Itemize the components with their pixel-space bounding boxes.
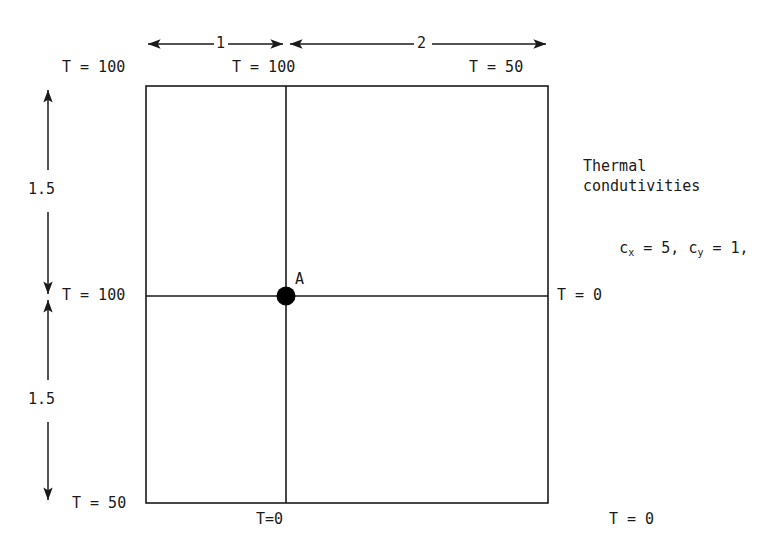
- dim-label-top-right: 2: [417, 36, 426, 51]
- point-a-marker: [277, 287, 296, 306]
- diagram-canvas: 1 2 1.5 1.5 T = 100 T = 100 T = 50 T = 1…: [0, 0, 759, 552]
- domain-square: [146, 86, 548, 503]
- annotation-thermal-line2: condutivities: [583, 176, 700, 196]
- conductivity-y-subscript: y: [697, 247, 703, 258]
- boundary-label-bottom-right: T = 0: [609, 512, 654, 527]
- boundary-label-left-middle: T = 100: [62, 288, 125, 303]
- conductivity-y-value: = 1,: [703, 239, 748, 257]
- boundary-label-bottom-center: T=0: [256, 512, 283, 527]
- conductivity-x-value: = 5,: [634, 239, 688, 257]
- dim-label-left-lower: 1.5: [28, 392, 55, 407]
- boundary-label-bottom-left: T = 50: [72, 496, 126, 511]
- conductivity-x-subscript: x: [628, 247, 634, 258]
- boundary-label-top-center: T = 100: [232, 60, 295, 75]
- conductivity-x-symbol: c: [619, 239, 628, 257]
- boundary-label-top-right: T = 50: [469, 60, 523, 75]
- point-a-label: A: [295, 272, 304, 287]
- boundary-label-top-left: T = 100: [62, 60, 125, 75]
- annotation-conductivity-values: cx = 5, cy = 1,: [583, 218, 749, 280]
- boundary-label-right-middle: T = 0: [557, 288, 602, 303]
- annotation-thermal-line1: Thermal: [583, 156, 646, 176]
- dim-label-left-upper: 1.5: [28, 182, 55, 197]
- dim-label-top-left: 1: [216, 36, 225, 51]
